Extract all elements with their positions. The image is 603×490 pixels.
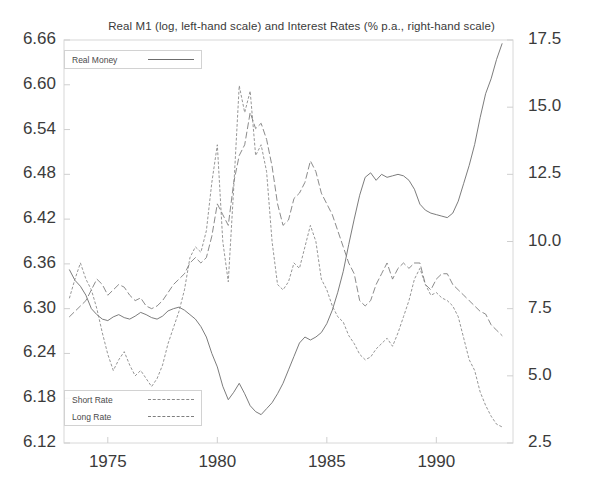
x-axis-tick-label: 1985: [297, 452, 357, 472]
left-axis-tick-label: 6.12: [4, 432, 56, 452]
legend-label-short-rate: Short Rate: [72, 395, 113, 405]
plot-frame: [64, 40, 513, 443]
legend-label-real-money: Real Money: [72, 55, 117, 65]
x-axis-ticks: [108, 437, 437, 443]
legend-line-long-dash-icon: [148, 416, 194, 418]
left-axis-tick-label: 6.60: [4, 74, 56, 94]
right-axis-tick-label: 17.5: [528, 29, 588, 49]
legend-label-long-rate: Long Rate: [72, 412, 111, 422]
series-line-long-rate: [69, 113, 502, 336]
right-axis-tick-label: 7.5: [528, 298, 588, 318]
series-lines: [69, 44, 502, 427]
legend-item-long-rate: Long Rate: [65, 408, 201, 425]
right-axis-tick-label: 5.0: [528, 365, 588, 385]
series-line-real-money: [69, 44, 502, 415]
right-axis-tick-label: 15.0: [528, 96, 588, 116]
x-axis-tick-label: 1990: [406, 452, 466, 472]
legend-item-short-rate: Short Rate: [65, 391, 201, 408]
right-axis-tick-label: 10.0: [528, 231, 588, 251]
left-axis-tick-label: 6.42: [4, 208, 56, 228]
left-axis-tick-label: 6.54: [4, 119, 56, 139]
right-axis-ticks: [507, 40, 513, 443]
left-axis-tick-label: 6.24: [4, 342, 56, 362]
legend-line-solid-icon: [148, 59, 194, 61]
chart-figure: Real M1 (log, left-hand scale) and Inter…: [0, 0, 603, 490]
left-axis-tick-label: 6.30: [4, 298, 56, 318]
left-axis-ticks: [64, 40, 70, 443]
right-axis-tick-label: 12.5: [528, 163, 588, 183]
left-axis-tick-label: 6.48: [4, 163, 56, 183]
left-axis-tick-label: 6.36: [4, 253, 56, 273]
legend-interest-rates: Short Rate Long Rate: [64, 390, 202, 426]
right-axis-tick-label: 2.5: [528, 432, 588, 452]
legend-line-short-dash-icon: [148, 399, 194, 401]
left-axis-tick-label: 6.66: [4, 29, 56, 49]
legend-item-real-money: Real Money: [65, 51, 201, 68]
x-axis-tick-label: 1975: [78, 452, 138, 472]
legend-real-money: Real Money: [64, 50, 202, 69]
left-axis-tick-label: 6.18: [4, 387, 56, 407]
x-axis-tick-label: 1980: [187, 452, 247, 472]
